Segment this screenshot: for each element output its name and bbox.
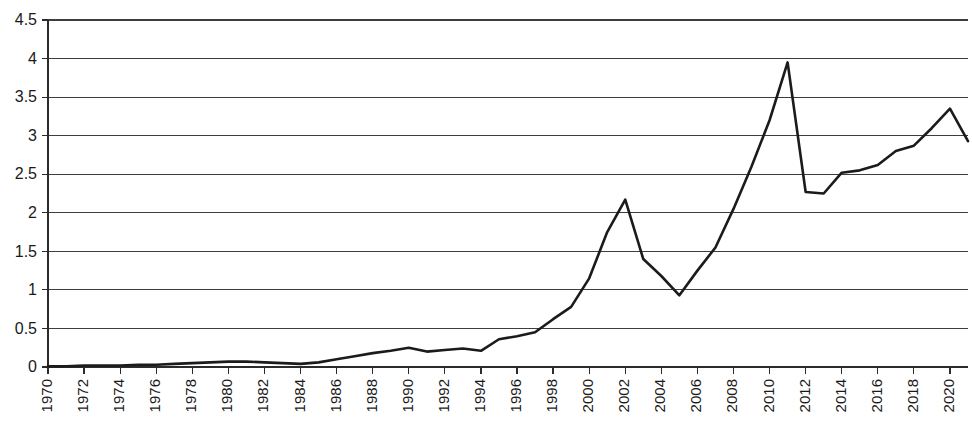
y-tick-label: 4 bbox=[28, 50, 37, 67]
y-tick-label: 3 bbox=[28, 127, 37, 144]
x-tick-label: 1984 bbox=[291, 379, 308, 412]
x-tick-label: 1990 bbox=[399, 379, 416, 412]
x-tick-label: 2000 bbox=[579, 379, 596, 412]
y-axis bbox=[42, 20, 48, 367]
x-tick-label: 2004 bbox=[651, 379, 668, 412]
y-tick-label: 0 bbox=[28, 358, 37, 375]
x-tick-label: 2008 bbox=[723, 379, 740, 412]
x-tick-label: 1986 bbox=[327, 379, 344, 412]
series-line-1 bbox=[48, 62, 968, 366]
x-tick-label: 1976 bbox=[146, 379, 163, 412]
data-series bbox=[48, 62, 968, 366]
x-tick-label: 1988 bbox=[363, 379, 380, 412]
y-tick-label: 0.5 bbox=[15, 320, 37, 337]
x-tick-label: 2016 bbox=[868, 379, 885, 412]
x-tick-label: 2020 bbox=[940, 379, 957, 412]
x-tick-label: 2018 bbox=[904, 379, 921, 412]
x-axis-tick-labels: 1970197219741976197819801982198419861988… bbox=[38, 379, 957, 412]
x-tick-label: 1978 bbox=[182, 379, 199, 412]
x-tick-label: 2006 bbox=[687, 379, 704, 412]
x-tick-label: 1996 bbox=[507, 379, 524, 412]
x-tick-label: 2010 bbox=[760, 379, 777, 412]
x-tick-label: 1980 bbox=[218, 379, 235, 412]
y-tick-label: 3.5 bbox=[15, 88, 37, 105]
x-tick-label: 1982 bbox=[254, 379, 271, 412]
x-tick-label: 2014 bbox=[832, 379, 849, 412]
x-tick-label: 1994 bbox=[471, 379, 488, 412]
x-axis bbox=[48, 367, 968, 374]
x-tick-label: 1970 bbox=[38, 379, 55, 412]
y-tick-label: 1.5 bbox=[15, 243, 37, 260]
line-chart-figure: 00.511.522.533.544.5 1970197219741976197… bbox=[0, 0, 972, 423]
x-tick-label: 1974 bbox=[110, 379, 127, 412]
x-tick-label: 1998 bbox=[543, 379, 560, 412]
x-tick-label: 1972 bbox=[74, 379, 91, 412]
chart-canvas: 00.511.522.533.544.5 1970197219741976197… bbox=[0, 0, 972, 423]
y-axis-tick-labels: 00.511.522.533.544.5 bbox=[15, 11, 37, 375]
x-tick-label: 2012 bbox=[796, 379, 813, 412]
x-tick-label: 2002 bbox=[615, 379, 632, 412]
y-tick-label: 2.5 bbox=[15, 165, 37, 182]
y-tick-label: 2 bbox=[28, 204, 37, 221]
gridlines bbox=[48, 20, 968, 367]
y-tick-label: 4.5 bbox=[15, 11, 37, 28]
y-tick-label: 1 bbox=[28, 281, 37, 298]
x-tick-label: 1992 bbox=[435, 379, 452, 412]
